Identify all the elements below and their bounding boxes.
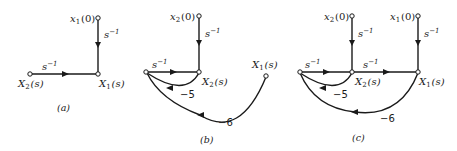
node-X1-s (264, 74, 268, 78)
arrow-right-icon (62, 71, 69, 77)
label-x2-0: x2(0) (324, 11, 349, 24)
label-X1-s: X1(s) (418, 76, 445, 89)
node-x1-0 (96, 16, 100, 20)
gain-label: s−1 (358, 27, 373, 39)
gain-label: s−1 (424, 27, 439, 39)
caption-c: (c) (352, 132, 365, 143)
arrow-right-icon (383, 69, 390, 75)
signal-flow-graphs: s−1 s−1 x1(0) X1(s) X2(s) (a) s−1 s−1 −5… (0, 0, 457, 151)
arrow-left-icon (166, 85, 173, 91)
node-X2-s (28, 72, 32, 76)
node-left (298, 70, 302, 74)
node-x2-0 (350, 14, 354, 18)
label-X2-s: X2(s) (201, 76, 228, 89)
gain-label: s−1 (152, 58, 167, 70)
node-left (144, 70, 148, 74)
arrow-left-icon (197, 112, 204, 118)
arrow-down-icon (196, 40, 202, 46)
gain-label-minus6: −6 (380, 113, 395, 124)
arrow-right-icon (323, 69, 330, 75)
edge-X2-to-left-minus5 (147, 73, 199, 86)
arrow-down-icon (95, 42, 101, 48)
caption-b: (b) (200, 134, 214, 145)
caption-a: (a) (57, 102, 70, 113)
gain-label: s−1 (42, 60, 57, 72)
label-X1-s: X1(s) (98, 78, 125, 91)
node-x1-0 (416, 14, 420, 18)
gain-label-minus5: −5 (180, 89, 195, 100)
label-X1-s: X1(s) (251, 59, 278, 72)
label-x1-0: x1(0) (70, 13, 95, 26)
label-X2-s: X2(s) (354, 76, 381, 89)
gain-label-minus5: −5 (333, 89, 348, 100)
arrow-left-icon (351, 109, 358, 115)
gain-label: s−1 (104, 28, 119, 40)
node-X1-s (96, 72, 100, 76)
arrow-right-icon (170, 69, 177, 75)
panel-a: s−1 s−1 x1(0) X1(s) X2(s) (a) (17, 13, 125, 113)
node-X1-s (416, 70, 420, 74)
arrow-down-icon (415, 40, 421, 46)
gain-label: s−1 (205, 27, 220, 39)
gain-label-minus6: −6 (218, 117, 233, 128)
gain-label: s−1 (363, 58, 378, 70)
node-x2-0 (197, 14, 201, 18)
panel-c: s−1 s−1 s−1 s−1 −5 −6 x2(0) x1(0) X2(s) … (298, 11, 445, 143)
arrow-down-icon (349, 40, 355, 46)
label-x2-0: x2(0) (170, 11, 195, 24)
label-X2-s: X2(s) (17, 78, 44, 91)
gain-label: s−1 (305, 58, 320, 70)
arrow-left-icon (319, 85, 326, 91)
node-X2-s (350, 70, 354, 74)
panel-b: s−1 s−1 −5 −6 x2(0) X2(s) X1(s) (b) (144, 11, 278, 145)
edge-X2-to-left-minus5 (300, 73, 352, 86)
label-x1-0: x1(0) (390, 11, 415, 24)
node-X2-s (197, 70, 201, 74)
